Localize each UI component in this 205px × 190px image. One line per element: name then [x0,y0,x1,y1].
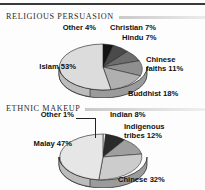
label-malay: Malay 47% [0,140,72,149]
label-buddhist: Buddhist 18% [128,90,205,99]
label-chinese-ethnic: Chinese 32% [118,176,205,185]
label-chinese-faiths: Chinese faiths 11% [146,56,205,73]
top-divider-rule [0,3,205,5]
label-other-religion: Other 4% [28,24,96,33]
leader-line-other-horizontal [76,118,96,119]
infographic-page: RELIGIOUS PERSUASION [0,0,205,190]
label-indian: Indian 8% [110,111,205,120]
label-indigenous: Indigenous tribes 12% [124,123,205,140]
section-title-religion: RELIGIOUS PERSUASION [6,13,114,21]
section-rule-religion [119,16,205,19]
label-christian: Christian 7% [110,24,205,33]
pie-chart-religious-persuasion: Islam 53% Other 4% Christian 7% Hindu 7%… [0,22,205,100]
label-other-ethnic: Other 1% [8,111,74,120]
pie-chart-ethnic-makeup: Other 1% Malay 47% Indian 8% Indigenous … [0,112,205,190]
leader-line-other-vertical [95,118,96,138]
label-hindu: Hindu 7% [122,34,205,43]
label-islam: Islam 53% [4,63,76,72]
